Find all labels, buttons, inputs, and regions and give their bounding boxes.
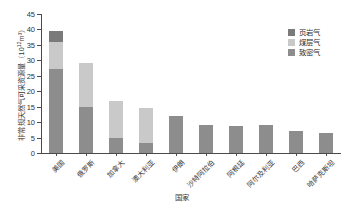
bar-segment (49, 42, 63, 68)
legend-item: 煤层气 (288, 39, 320, 46)
bar-segment (289, 131, 303, 153)
x-axis-tick-label: 加拿大 (104, 157, 126, 179)
bar (259, 125, 273, 153)
bar-segment (79, 107, 93, 153)
y-axis-title: 非常规天然气可采资源量（1012m³） (16, 8, 26, 158)
bar-segment (229, 126, 243, 153)
legend-item-label: 煤层气 (299, 39, 320, 46)
x-axis-tick-label: 阿根廷 (224, 157, 246, 179)
y-axis-tick-label: 0 (31, 149, 35, 158)
legend-item-label: 页岩气 (299, 29, 320, 36)
bar-segment (109, 101, 123, 138)
bar (199, 125, 213, 153)
bar (109, 101, 123, 154)
y-axis-tick-label: 25 (27, 71, 35, 80)
bar-segment (169, 116, 183, 153)
y-axis-tick (37, 91, 41, 92)
y-axis-tick (37, 153, 41, 154)
bar (79, 63, 93, 153)
legend-item: 致密气 (288, 49, 320, 56)
x-axis-tick (176, 153, 177, 156)
x-axis-tick-label: 澳大利亚 (129, 157, 156, 184)
bar (319, 133, 333, 153)
bar-segment (139, 108, 153, 143)
bar-segment (139, 143, 153, 153)
y-axis-title-unit: m³） (17, 26, 26, 42)
y-axis-title-main: 非常规天然气可采资源量（10 (17, 47, 26, 140)
x-axis-tick-label: 俄罗斯 (74, 157, 96, 179)
y-axis-tick-label: 20 (27, 87, 35, 96)
legend-swatch-icon (288, 39, 295, 46)
bar-segment (319, 133, 333, 153)
y-axis-title-exponent: 12 (16, 41, 22, 47)
y-axis-tick (37, 76, 41, 77)
bar-segment (109, 138, 123, 153)
x-axis-tick-label: 伊朗 (169, 157, 186, 174)
x-axis-tick (326, 153, 327, 156)
x-axis-title: 国家 (0, 191, 363, 202)
y-axis-tick (37, 60, 41, 61)
x-axis-tick (116, 153, 117, 156)
y-axis-tick (37, 45, 41, 46)
bar-segment (49, 31, 63, 42)
y-axis-tick (37, 14, 41, 15)
x-axis-tick (56, 153, 57, 156)
bar (169, 116, 183, 153)
x-axis-tick-label: 巴西 (289, 157, 306, 174)
y-axis-tick-label: 10 (27, 118, 35, 127)
bar (49, 31, 63, 153)
x-axis-tick (206, 153, 207, 156)
x-axis-tick-label: 阿尔及利亚 (244, 157, 276, 189)
chart-legend: 页岩气煤层气致密气 (288, 29, 320, 59)
y-axis-tick-label: 30 (27, 56, 35, 65)
y-axis-line (41, 14, 42, 153)
x-axis-tick-label: 美国 (49, 157, 66, 174)
chart-figure: 非常规天然气可采资源量（1012m³） 051015202530354045 美… (0, 0, 363, 214)
bar (229, 126, 243, 153)
legend-item: 页岩气 (288, 29, 320, 36)
y-axis-tick-label: 35 (27, 40, 35, 49)
x-axis-tick-label: 哈萨克斯坦 (304, 157, 336, 189)
x-axis-tick (236, 153, 237, 156)
x-axis-tick-label: 沙特阿拉伯 (184, 157, 216, 189)
bar-segment (79, 63, 93, 106)
y-axis-tick (37, 107, 41, 108)
y-axis-tick-label: 5 (31, 133, 35, 142)
y-axis-tick-label: 45 (27, 10, 35, 19)
legend-swatch-icon (288, 49, 295, 56)
y-axis-tick (37, 122, 41, 123)
x-axis-tick (146, 153, 147, 156)
bar-segment (259, 125, 273, 153)
bar-segment (199, 125, 213, 153)
bar (289, 131, 303, 153)
x-axis-tick (86, 153, 87, 156)
y-axis-tick (37, 138, 41, 139)
x-axis-tick (296, 153, 297, 156)
bar-segment (49, 69, 63, 153)
bar (139, 108, 153, 153)
y-axis-tick-label: 15 (27, 102, 35, 111)
x-axis-tick (266, 153, 267, 156)
legend-swatch-icon (288, 29, 295, 36)
y-axis-tick (37, 29, 41, 30)
y-axis-tick-label: 40 (27, 25, 35, 34)
legend-item-label: 致密气 (299, 49, 320, 56)
